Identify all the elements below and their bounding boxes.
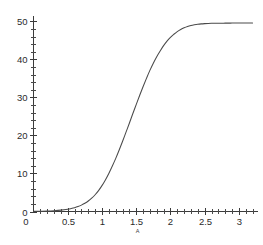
chart-figure: 01020304050 0.511.522.530 A <box>0 0 263 245</box>
x-axis-tick-label: 2 <box>168 216 173 227</box>
y-axis-tick-label: 30 <box>17 92 28 103</box>
x-axis-label: A <box>136 228 140 234</box>
x-axis-tick-label: 0.5 <box>62 216 75 227</box>
y-axis-tick-label: 50 <box>17 16 28 27</box>
y-axis-tick-label: 10 <box>17 168 28 179</box>
x-axis-tick-label: 1.5 <box>130 216 143 227</box>
data-series-curve <box>34 23 253 211</box>
x-axis-tick-label: 2.5 <box>199 216 212 227</box>
y-axis-tick-label: 20 <box>17 130 28 141</box>
plot-area: 01020304050 0.511.522.530 A <box>0 0 263 245</box>
x-axis-tick-label: 1 <box>100 216 105 227</box>
y-axis-tick-labels: 01020304050 <box>17 16 28 218</box>
origin-label: 0 <box>23 216 28 227</box>
x-axis-tick-label: 3 <box>237 216 242 227</box>
x-axis-tick-labels: 0.511.522.530 <box>23 216 242 227</box>
y-axis-tick-label: 40 <box>17 54 28 65</box>
